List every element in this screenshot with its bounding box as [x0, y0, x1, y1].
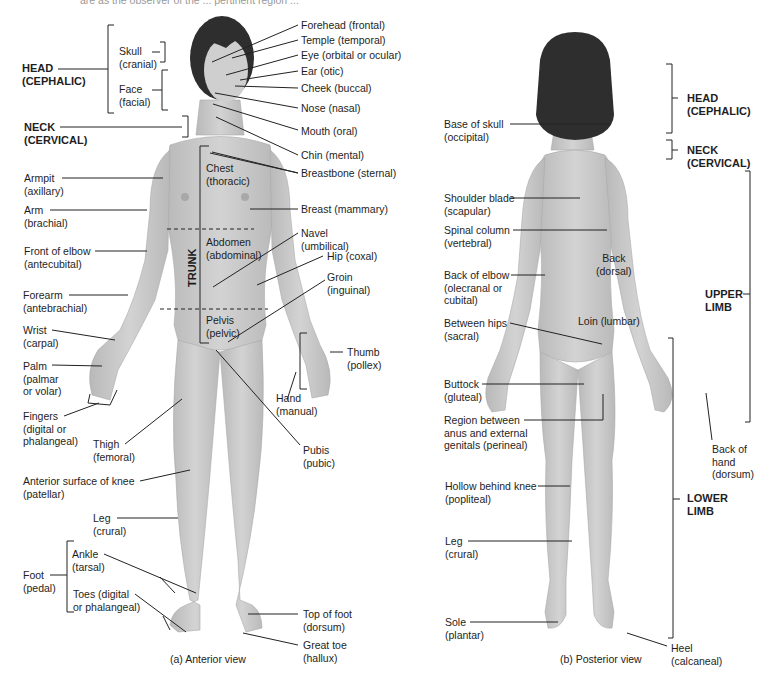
anatomy-illustration [0, 0, 772, 675]
label-knee: Anterior surface of knee(patellar) [23, 475, 134, 500]
label-shoulder-blade: Shoulder blade(scapular) [444, 192, 515, 217]
label-leg: Leg(crural) [93, 512, 126, 537]
label-chest: Chest(thoracic) [206, 162, 250, 187]
label-breast: Breast (mammary) [301, 203, 388, 216]
label-perineal: Region betweenanus and externalgenitals … [444, 414, 527, 452]
anterior-head [190, 16, 254, 102]
label-hip: Hip (coxal) [327, 250, 377, 263]
label-navel: Navel(umbilical) [301, 227, 349, 252]
label-armpit: Armpit(axillary) [24, 172, 64, 197]
label-ankle: Ankle(tarsal) [72, 548, 105, 573]
label-head-posterior: HEAD(CEPHALIC) [687, 92, 751, 118]
label-hollow-behind-knee: Hollow behind knee(popliteal) [445, 480, 537, 505]
label-back: Back(dorsal) [596, 252, 632, 277]
label-neck-posterior: NECK(CERVICAL) [687, 144, 750, 170]
caption-anterior: (a) Anterior view [170, 653, 246, 665]
label-cheek: Cheek (buccal) [301, 82, 372, 95]
label-wrist: Wrist(carpal) [23, 324, 59, 349]
label-forearm: Forearm(antebrachial) [23, 289, 87, 314]
label-trunk: TRUNK [186, 249, 198, 288]
label-toes: Toes (digitalor phalangeal) [73, 588, 140, 613]
label-pelvis: Pelvis(pelvic) [206, 314, 240, 339]
label-palm: Palm(palmaror volar) [23, 360, 62, 398]
label-buttock: Buttock(gluteal) [444, 378, 482, 403]
label-thumb: Thumb(pollex) [347, 346, 381, 371]
label-front-of-elbow: Front of elbow(antecubital) [24, 245, 91, 270]
label-neck: NECK(CERVICAL) [24, 121, 87, 147]
label-lower-limb: LOWERLIMB [687, 492, 728, 518]
caption-posterior: (b) Posterior view [560, 653, 642, 665]
label-skull: Skull(cranial) [119, 45, 157, 70]
label-between-hips: Between hips(sacral) [444, 317, 507, 342]
label-spinal-column: Spinal column(vertebral) [444, 224, 510, 249]
label-sole: Sole(plantar) [445, 616, 484, 641]
label-nose: Nose (nasal) [301, 102, 361, 115]
label-abdomen: Abdomen(abdominal) [206, 236, 261, 261]
label-ear: Ear (otic) [301, 65, 344, 78]
label-mouth: Mouth (oral) [301, 125, 358, 138]
label-back-of-hand: Back ofhand(dorsum) [712, 443, 754, 481]
label-foot: Foot(pedal) [23, 569, 56, 594]
label-back-of-elbow: Back of elbow(olecranal orcubital) [444, 269, 509, 307]
label-groin: Groin(inguinal) [327, 271, 370, 296]
label-forehead: Forehead (frontal) [301, 19, 385, 32]
cropped-header-text: are as the observer of the ... pertinent… [80, 0, 299, 6]
label-breastbone: Breastbone (sternal) [301, 167, 396, 180]
label-hand: Hand(manual) [276, 392, 317, 417]
label-upper-limb: UPPERLIMB [705, 288, 743, 314]
label-temple: Temple (temporal) [301, 34, 386, 47]
label-top-of-foot: Top of foot(dorsum) [303, 608, 352, 633]
label-eye: Eye (orbital or ocular) [301, 49, 401, 62]
label-chin: Chin (mental) [301, 149, 364, 162]
label-pubis: Pubis(pubic) [303, 444, 335, 469]
label-loin: Loin (lumbar) [578, 315, 640, 328]
label-heel: Heel(calcaneal) [671, 642, 722, 667]
label-leg-posterior: Leg(crural) [445, 535, 478, 560]
label-great-toe: Great toe(hallux) [303, 639, 347, 664]
label-fingers: Fingers(digital orphalangeal) [23, 410, 78, 448]
label-face: Face(facial) [119, 83, 151, 108]
label-head: HEAD(CEPHALIC) [22, 62, 86, 88]
body-regions-figure: are as the observer of the ... pertinent… [0, 0, 772, 675]
label-arm: Arm(brachial) [24, 204, 68, 229]
label-thigh: Thigh(femoral) [93, 438, 135, 463]
label-base-of-skull: Base of skull(occipital) [444, 118, 504, 143]
